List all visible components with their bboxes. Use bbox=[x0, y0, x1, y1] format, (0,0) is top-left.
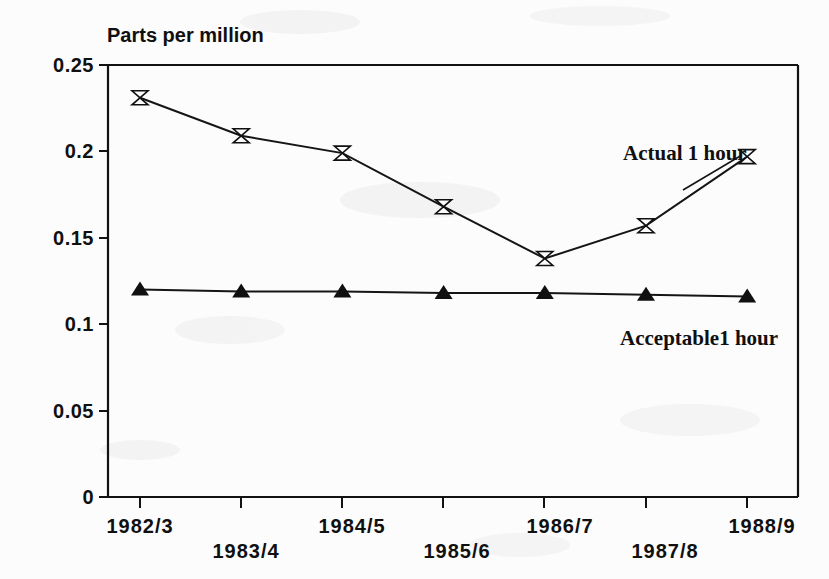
y-tick-label-0: 0 bbox=[82, 486, 94, 508]
y-axis-labels: 0.25 0.2 0.15 0.1 0.05 0 bbox=[53, 54, 94, 508]
data-point-marker-triangle bbox=[536, 285, 554, 299]
series-acceptable bbox=[131, 282, 756, 303]
x-tick-label-1982-3: 1982/3 bbox=[106, 515, 173, 537]
series-line bbox=[140, 98, 747, 259]
y-tick-label-0.05: 0.05 bbox=[53, 400, 94, 422]
series-actual bbox=[132, 91, 755, 266]
data-point-marker-bowtie bbox=[537, 252, 553, 266]
y-tick-label-0.1: 0.1 bbox=[65, 313, 94, 335]
x-tick-label-1985-6: 1985/6 bbox=[423, 540, 490, 562]
y-tick-label-0.2: 0.2 bbox=[65, 140, 94, 162]
chart-figure: Parts per million 0.25 0.2 0.15 0.1 0.05… bbox=[0, 0, 829, 579]
y-axis-title: Parts per million bbox=[107, 24, 264, 46]
x-axis-ticks bbox=[140, 497, 747, 508]
x-tick-label-1987-8: 1987/8 bbox=[631, 540, 698, 562]
paper-texture bbox=[100, 6, 760, 557]
data-point-marker-bowtie bbox=[132, 91, 148, 105]
x-axis-labels: 1982/3 1983/4 1984/5 1985/6 1986/7 1987/… bbox=[106, 515, 795, 562]
x-tick-label-1988-9: 1988/9 bbox=[728, 515, 795, 537]
annotation-actual-1-hour: Actual 1 hour bbox=[623, 141, 747, 165]
x-tick-label-1984-5: 1984/5 bbox=[318, 515, 385, 537]
x-tick-label-1986-7: 1986/7 bbox=[526, 515, 593, 537]
x-tick-label-1983-4: 1983/4 bbox=[212, 540, 279, 562]
data-point-marker-triangle bbox=[333, 283, 351, 297]
y-tick-label-0.15: 0.15 bbox=[53, 227, 94, 249]
y-tick-label-0.25: 0.25 bbox=[53, 54, 94, 76]
y-axis-ticks bbox=[99, 65, 108, 497]
data-point-marker-bowtie bbox=[638, 219, 654, 233]
line-chart-svg: Parts per million 0.25 0.2 0.15 0.1 0.05… bbox=[0, 0, 829, 579]
annotation-acceptable-1-hour: Acceptable1 hour bbox=[620, 326, 778, 350]
data-point-marker-triangle bbox=[131, 282, 149, 296]
